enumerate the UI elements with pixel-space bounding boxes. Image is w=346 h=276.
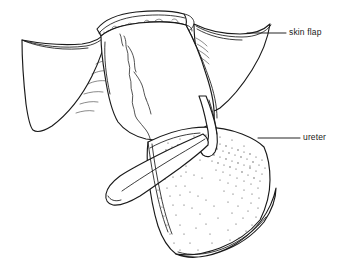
labels-group: skin flap ureter [289,27,326,142]
label-skin-flap: skin flap [289,27,322,37]
anatomical-drawing: skin flap ureter [0,0,346,276]
label-ureter: ureter [303,132,326,142]
left-skin-flap [22,30,108,131]
figure-container: skin flap ureter [0,0,346,276]
